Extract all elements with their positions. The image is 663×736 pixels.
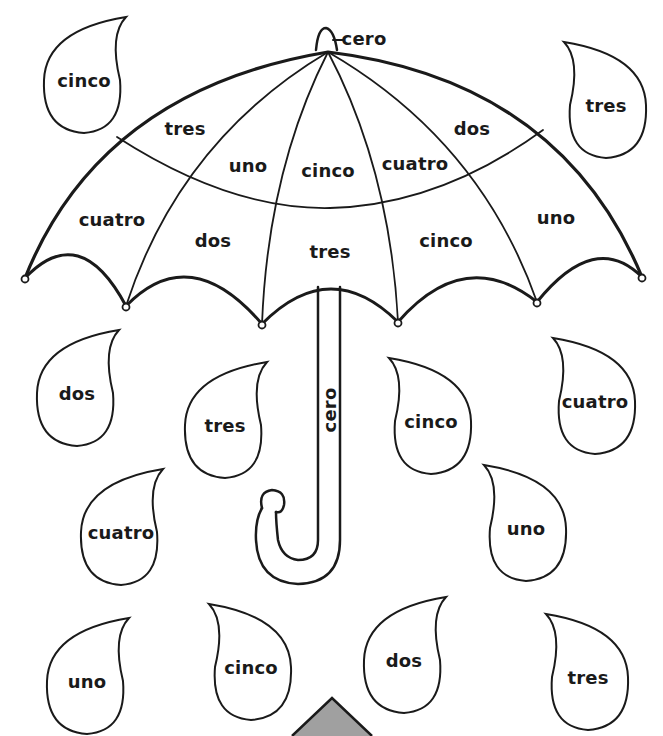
- raindrop-3[interactable]: tres: [204, 415, 245, 436]
- umbrella-panel-6[interactable]: dos: [195, 230, 232, 251]
- raindrop-10[interactable]: dos: [386, 650, 423, 671]
- umbrella-panel-7[interactable]: tres: [309, 241, 350, 262]
- umbrella-panel-9[interactable]: uno: [537, 207, 576, 228]
- raindrop-6[interactable]: cuatro: [88, 522, 155, 543]
- raindrop-2[interactable]: dos: [59, 383, 96, 404]
- handle-label: cero: [319, 388, 340, 433]
- umbrella-panel-3[interactable]: cuatro: [382, 153, 449, 174]
- raindrop-4[interactable]: cinco: [404, 411, 458, 432]
- raindrop-11[interactable]: tres: [567, 667, 608, 688]
- umbrella-drawing: [0, 0, 663, 736]
- raindrop-5[interactable]: cuatro: [562, 391, 629, 412]
- umbrella-panel-2[interactable]: cinco: [301, 160, 355, 181]
- umbrella-panel-4[interactable]: dos: [454, 118, 491, 139]
- umbrella-panel-0[interactable]: tres: [164, 118, 205, 139]
- umbrella-panel-1[interactable]: uno: [229, 155, 268, 176]
- raindrop-7[interactable]: uno: [507, 518, 546, 539]
- raindrop-8[interactable]: uno: [68, 671, 107, 692]
- raindrop-1[interactable]: tres: [585, 95, 626, 116]
- page-marker-icon: [292, 698, 372, 736]
- raindrop-9[interactable]: cinco: [224, 657, 278, 678]
- raindrop-0[interactable]: cinco: [57, 70, 111, 91]
- umbrella-panel-8[interactable]: cinco: [419, 230, 473, 251]
- umbrella-panel-5[interactable]: cuatro: [79, 209, 146, 230]
- umbrella-top-label: cero: [342, 28, 387, 49]
